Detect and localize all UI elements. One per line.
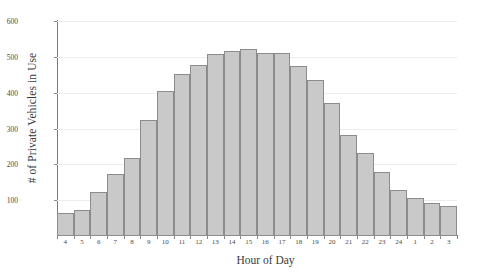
x-tick-mark [74,236,75,239]
bar [424,203,441,236]
x-tick-mark [390,236,391,239]
bar [240,49,257,236]
x-tick-mark [57,236,58,239]
x-tick-mark [324,236,325,239]
bar [107,174,124,236]
bar [307,80,324,236]
x-tick-mark [224,236,225,239]
bar [390,190,407,236]
bar-chart: # of Private Vehicles in Use 10020030040… [0,0,479,279]
bar [357,153,374,236]
x-tick-mark [407,236,408,239]
bar [257,53,274,236]
x-tick-mark [124,236,125,239]
bar [340,135,357,236]
x-tick-mark [424,236,425,239]
x-tick-mark [157,236,158,239]
bar [74,210,91,236]
x-axis-title: Hour of Day [0,254,479,266]
bar [374,172,391,236]
x-tick-mark [190,236,191,239]
y-tick-label: 300 [0,125,18,134]
x-tick-mark [240,236,241,239]
bar [440,206,457,236]
x-tick-mark [174,236,175,239]
bar [57,213,74,236]
bar [174,74,191,236]
x-tick-mark [440,236,441,239]
x-tick-mark [374,236,375,239]
bar [90,192,107,236]
x-tick-mark [207,236,208,239]
y-axis-title: # of Private Vehicles in Use [26,18,38,218]
x-tick-mark [107,236,108,239]
x-tick-mark [257,236,258,239]
bar [290,66,307,236]
bar [224,51,241,236]
bar [190,65,207,236]
y-tick-label: 200 [0,160,18,169]
x-tick-mark [90,236,91,239]
bar [274,53,291,236]
y-tick-label: 100 [0,196,18,205]
plot-area [57,21,457,236]
y-tick-label: 400 [0,89,18,98]
x-tick-mark [357,236,358,239]
bar [140,120,157,236]
y-tick-label: 500 [0,53,18,62]
gridline [57,21,457,22]
x-tick-mark [307,236,308,239]
x-tick-mark [340,236,341,239]
x-tick-mark [457,236,458,239]
bar [157,91,174,236]
x-tick-label: 3 [439,238,459,246]
bar [207,54,224,236]
x-tick-mark [274,236,275,239]
bar [324,103,341,236]
bar [124,158,141,236]
y-tick-label: 600 [0,17,18,26]
x-tick-mark [140,236,141,239]
bar [407,198,424,236]
x-tick-mark [290,236,291,239]
